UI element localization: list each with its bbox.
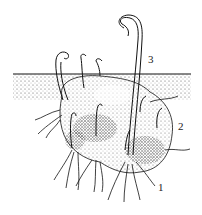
label-1: 1 <box>158 182 164 193</box>
potato-sprout-diagram: 1 2 3 <box>0 0 202 215</box>
label-2: 2 <box>178 121 184 132</box>
label-3: 3 <box>148 54 154 65</box>
diagram-svg <box>0 0 202 215</box>
